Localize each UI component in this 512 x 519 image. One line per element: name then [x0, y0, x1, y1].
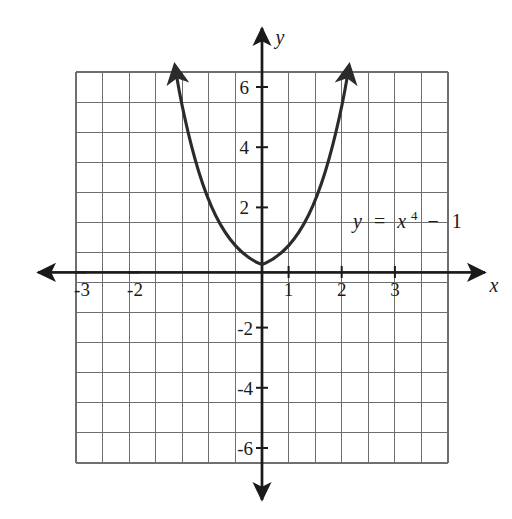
y-tick-label-neg6: -6 — [237, 438, 253, 459]
x-axis-label: x — [489, 274, 499, 296]
x-tick-label-2: 2 — [337, 279, 347, 300]
y-tick-label-6: 6 — [240, 77, 250, 98]
equation-equals: = — [374, 210, 385, 232]
coordinate-graph-canvas: -3 -2 1 2 3 6 4 2 -2 -4 -6 x y y = x 4 −… — [0, 0, 512, 519]
y-tick-label-neg2: -2 — [237, 318, 253, 339]
equation-constant: 1 — [452, 210, 462, 232]
y-tick-label-4: 4 — [240, 137, 250, 158]
equation-lhs: y — [351, 210, 362, 233]
equation-base: x — [396, 210, 406, 232]
x-tick-label-neg2: -2 — [127, 279, 143, 300]
x-tick-label-neg3: -3 — [74, 279, 90, 300]
equation-minus: − — [428, 210, 439, 232]
x-tick-label-1: 1 — [284, 279, 294, 300]
equation-exponent: 4 — [411, 208, 418, 223]
y-tick-label-neg4: -4 — [237, 378, 253, 399]
y-tick-label-2: 2 — [240, 197, 250, 218]
figure-background — [0, 0, 512, 519]
y-axis-label: y — [274, 26, 285, 49]
x-tick-label-3: 3 — [390, 279, 400, 300]
graph-figure: -3 -2 1 2 3 6 4 2 -2 -4 -6 x y y = x 4 −… — [0, 0, 512, 519]
